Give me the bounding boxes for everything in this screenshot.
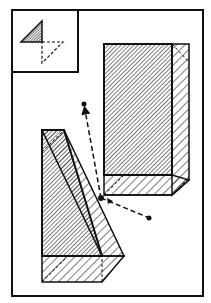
arrow-up-endpoint [82, 102, 87, 107]
right-block-side-face [172, 44, 189, 195]
right-block [104, 44, 189, 195]
arrow-right-endpoint [147, 216, 152, 221]
diagram-canvas [0, 0, 211, 303]
origin-point [98, 195, 104, 201]
right-block-front-face [104, 44, 172, 175]
inset-legend [12, 10, 78, 72]
right-block-bottom-face [104, 175, 189, 195]
